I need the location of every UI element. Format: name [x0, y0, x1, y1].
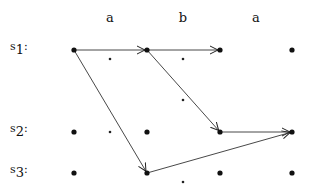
edge-arrow [74, 50, 146, 171]
node-s2-3 [289, 129, 294, 134]
intermediate-dot [109, 131, 112, 134]
trellis-graph [0, 0, 310, 194]
node-s3-0 [71, 170, 76, 175]
intermediate-dot [182, 58, 185, 61]
node-s2-2 [217, 129, 222, 134]
intermediate-dot [182, 181, 185, 184]
node-s1-2 [217, 47, 222, 52]
node-s3-3 [289, 170, 294, 175]
node-s3-1 [144, 170, 149, 175]
node-s3-2 [217, 170, 222, 175]
node-s1-1 [144, 47, 149, 52]
edge-arrow [147, 50, 219, 131]
node-s1-3 [289, 47, 294, 52]
node-s2-0 [71, 129, 76, 134]
edge-arrow [147, 133, 290, 173]
intermediate-dot [182, 99, 185, 102]
intermediate-dot [109, 58, 112, 61]
node-s1-0 [71, 47, 76, 52]
edges [74, 50, 290, 173]
node-s2-1 [144, 129, 149, 134]
